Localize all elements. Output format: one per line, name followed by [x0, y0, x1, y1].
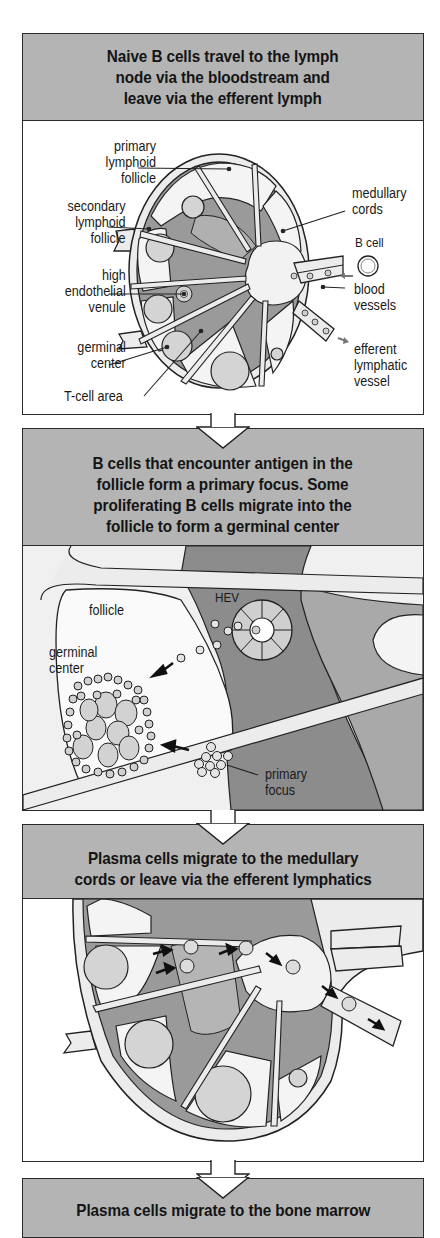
label-follicle: follicle: [89, 602, 124, 618]
panel-1-header: Naive B cells travel to the lymph node v…: [22, 33, 424, 122]
label-hev: HEV: [215, 590, 239, 606]
label-secondary-lymphoid-follicle: secondary lymphoid follicle: [68, 198, 126, 246]
down-arrow-2-tip: [196, 823, 250, 845]
panel-2-figure: follicle HEV germinal center primary foc…: [22, 545, 424, 811]
panel-1-title: Naive B cells travel to the lymph node v…: [107, 46, 339, 109]
label-primary-lymphoid-follicle: primary lymphoid follicle: [106, 138, 156, 186]
panel-2-title: B cells that encounter antigen in the fo…: [93, 439, 353, 537]
label-germinal-center: germinal center: [78, 339, 126, 371]
panel-1-figure: primary lymphoid follicle secondary lymp…: [22, 120, 424, 415]
label-germinal-center-2: germinal center: [49, 644, 97, 676]
label-efferent-lymphatic-vessel: efferent lymphatic vessel: [354, 341, 407, 389]
down-arrow-3-tip: [196, 1177, 250, 1199]
label-primary-focus: primary focus: [265, 766, 307, 798]
down-arrow-1-tip: [196, 427, 250, 449]
panel-3-figure: [22, 898, 424, 1162]
label-t-cell-area: T-cell area: [64, 388, 123, 404]
follicle-germinal-center-diagram: [23, 546, 423, 810]
label-high-endothelial-venule: high endothelial venule: [65, 267, 126, 315]
label-b-cell: B cell: [355, 235, 384, 251]
plasma-cell-migration-diagram: [23, 899, 423, 1161]
label-medullary-cords: medullary cords: [352, 185, 407, 217]
label-blood-vessels: blood vessels: [354, 281, 396, 313]
hev-cross-section: [232, 600, 292, 660]
